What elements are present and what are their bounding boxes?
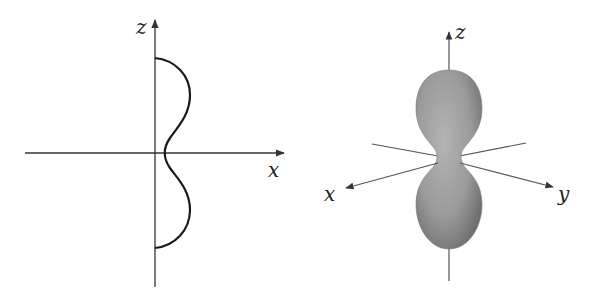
dumbbell-surface — [416, 70, 482, 249]
left-z-label: z — [136, 17, 147, 37]
right-diagram — [346, 32, 553, 281]
right-z-label: z — [455, 22, 466, 42]
left-x-label: x — [268, 160, 279, 180]
right-x-label: x — [324, 184, 335, 204]
figure-canvas — [0, 0, 591, 300]
right-y-label: y — [558, 184, 569, 204]
left-diagram — [25, 20, 284, 287]
